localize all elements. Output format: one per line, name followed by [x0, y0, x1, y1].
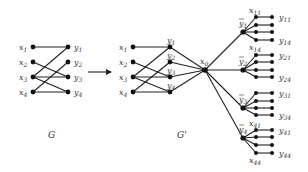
gp-node-y32	[270, 99, 274, 103]
g-label-x1: x1	[19, 43, 27, 53]
gp-node-x23	[254, 68, 258, 72]
gp-label-y3: y3	[166, 66, 176, 76]
g-label-x2: x2	[19, 58, 28, 68]
edges-layer	[33, 17, 272, 153]
g-caption: G	[48, 130, 55, 140]
gp-label-ybar2: y2	[238, 57, 248, 67]
gp-node-y33	[270, 106, 274, 110]
gp-node-x3	[131, 75, 136, 80]
gp-label-ybar3: y3	[238, 95, 248, 105]
g-node-x3	[31, 75, 36, 80]
gp-node-x33	[254, 106, 258, 110]
g-label-y4: y4	[73, 88, 83, 98]
g-edge-x2-y3	[33, 62, 68, 77]
gp-label-ybar1: y1	[238, 19, 247, 29]
gp-node-y12	[270, 23, 274, 27]
gp-node-y43	[270, 143, 274, 147]
gp-node-x31	[254, 91, 258, 95]
gp-label-x3: x3	[119, 73, 128, 83]
gp-edge-x3-y1	[133, 47, 170, 77]
gp-node-y21	[270, 53, 274, 57]
gp-node-y24	[270, 75, 274, 79]
gp-node-ybar2	[240, 67, 245, 72]
gp-edge-x0-ybar4	[205, 70, 243, 138]
gp-node-x42	[254, 135, 258, 139]
gp-label-y41: y41	[278, 126, 291, 136]
gp-node-x14	[254, 38, 258, 42]
gp-node-y34	[270, 113, 274, 117]
gp-node-y42	[270, 135, 274, 139]
gp-label-x4: x4	[119, 88, 128, 98]
gp-label-y2: y2	[166, 51, 176, 61]
gp-edge-x0-ybar1	[205, 32, 243, 70]
gp-node-x24	[254, 75, 258, 79]
gp-label-y34: y34	[278, 111, 291, 121]
gp-node-y44	[270, 151, 274, 155]
gp-node-y31	[270, 91, 274, 95]
gp-node-x32	[254, 99, 258, 103]
gp-node-ybar3	[240, 105, 245, 110]
gp-node-y41	[270, 128, 274, 132]
g-label-y1: y1	[73, 43, 82, 53]
g-node-x2	[31, 60, 36, 65]
diagram-canvas: x1x2x3x4y1y2y3y4Gx1x2x3x4y1y2y3y4G'x0y1y…	[0, 0, 308, 172]
g-label-y2: y2	[73, 58, 83, 68]
gp-node-x21	[254, 53, 258, 57]
gp-label-y31: y31	[278, 89, 291, 99]
gp-label-y1: y1	[166, 36, 175, 46]
gp-label-y14: y14	[278, 36, 291, 46]
gp-node-ybar1	[240, 29, 245, 34]
gp-label-y21: y21	[278, 51, 291, 61]
gp-node-x44	[254, 151, 258, 155]
gp-label-y4: y4	[166, 81, 176, 91]
g-node-x1	[31, 45, 36, 50]
gp-node-y11	[270, 15, 274, 19]
gp-edge-ybar4-x44	[243, 138, 256, 153]
gp-label-x1: x1	[119, 43, 127, 53]
gp-node-x43	[254, 143, 258, 147]
g-edge-x3-y1	[33, 47, 68, 77]
g-edge-x3-y4	[33, 77, 68, 92]
gp-label-x2: x2	[119, 58, 128, 68]
gp-edge-x3-y4	[133, 77, 170, 92]
gp-node-x0	[202, 67, 208, 73]
gp-label-y44: y44	[278, 149, 291, 159]
gp-node-x13	[254, 30, 258, 34]
gp-label-y24: y24	[278, 73, 291, 83]
g-node-y1	[66, 45, 71, 50]
gp-caption: G'	[177, 130, 187, 140]
gp-node-y14	[270, 38, 274, 42]
gp-label-x11: x11	[249, 6, 261, 16]
gp-node-y13	[270, 30, 274, 34]
g-node-y4	[66, 90, 71, 95]
gp-node-y22	[270, 60, 274, 64]
g-label-x3: x3	[19, 73, 28, 83]
gp-node-x2	[131, 60, 136, 65]
gp-node-x34	[254, 113, 258, 117]
gp-edge-x0-ybar3	[205, 70, 243, 108]
gp-label-y11: y11	[278, 13, 291, 23]
gp-node-x4	[131, 90, 136, 95]
gp-label-x14: x14	[249, 43, 261, 53]
g-node-y3	[66, 75, 71, 80]
g-label-y3: y3	[73, 73, 83, 83]
gp-node-ybar4	[240, 135, 245, 140]
g-node-y2	[66, 60, 71, 65]
g-node-x4	[31, 90, 36, 95]
g-label-x4: x4	[19, 88, 28, 98]
gp-label-ybar4: y4	[238, 125, 248, 135]
gp-node-y23	[270, 68, 274, 72]
gp-node-x22	[254, 60, 258, 64]
gp-edge-x2-y3	[133, 62, 170, 77]
gp-label-x44: x44	[249, 156, 261, 166]
gp-node-x12	[254, 23, 258, 27]
gp-label-x41: x41	[249, 119, 261, 129]
gp-label-x0: x0	[200, 57, 209, 67]
gp-node-x1	[131, 45, 136, 50]
